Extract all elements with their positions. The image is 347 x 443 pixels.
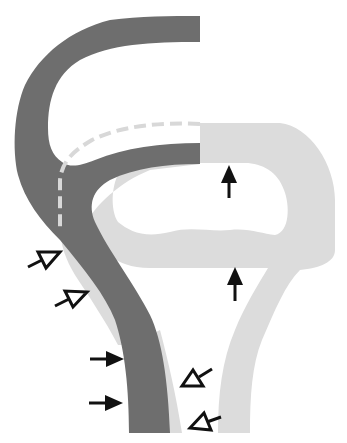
up-arrow-icon: [227, 267, 243, 301]
open-arrow-icon: [28, 252, 60, 268]
right-arrow-icon: [90, 351, 124, 367]
open-arrow-icon: [190, 413, 221, 430]
open-arrow-icon: [55, 291, 87, 307]
up-arrow-icon: [221, 165, 237, 198]
open-downleft-arrows: [182, 369, 221, 430]
right-arrow-icon: [89, 395, 123, 411]
filled-right-arrows: [89, 351, 124, 411]
anatomical-diagram: [0, 0, 347, 443]
open-arrow-icon: [182, 369, 212, 386]
